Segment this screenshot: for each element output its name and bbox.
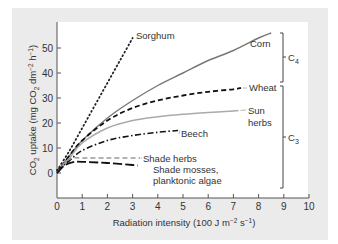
x-tick-label: 7 (231, 201, 237, 212)
y-tick-label: 10 (42, 143, 54, 154)
x-tick-label: 3 (130, 201, 136, 212)
y-tick-label: 30 (42, 93, 54, 104)
x-tick-label: 1 (79, 201, 85, 212)
label-c4: C4 (288, 52, 299, 65)
x-axis-title: Radiation intensity (100 J m−2 s−1) (113, 217, 256, 228)
x-tick-label: 2 (105, 201, 111, 212)
label-shade-mosses-line1: Shade mosses, (153, 164, 218, 175)
label-leader-line (240, 110, 246, 111)
label-corn: Corn (250, 38, 271, 49)
x-tick-label: 8 (256, 201, 262, 212)
curve-corn (57, 33, 271, 173)
label-shade-mosses-line2: planktonic algae (153, 175, 222, 186)
y-ticks: 01020304050 (42, 43, 61, 179)
label-sorghum: Sorghum (136, 30, 175, 41)
curve-shade-mosses-planktonic-algae (57, 162, 138, 173)
x-tick-label: 9 (281, 201, 287, 212)
label-leader-line (179, 131, 180, 135)
x-tick-label: 0 (54, 201, 60, 212)
line-chart: 012345678910 01020304050 Sorghum Corn Wh… (0, 0, 338, 244)
y-tick-label: 40 (42, 68, 54, 79)
x-tick-label: 5 (180, 201, 186, 212)
curves (57, 33, 271, 173)
label-sun-herbs-line2: herbs (248, 117, 272, 128)
bracket-c4 (280, 33, 286, 82)
y-tick-label: 20 (42, 118, 54, 129)
x-tick-label: 4 (155, 201, 161, 212)
curve-sorghum (57, 38, 133, 171)
y-axis-title: CO2 uptake (mg CO2 dm−2 h−1) (27, 45, 40, 175)
y-tick-label: 50 (42, 43, 54, 54)
label-wheat: Wheat (249, 82, 277, 93)
label-sun-herbs-line1: Sun (248, 105, 265, 116)
bracket-c3 (280, 86, 286, 188)
label-beech: Beech (181, 128, 208, 139)
x-tick-label: 6 (205, 201, 211, 212)
label-c3: C3 (288, 132, 299, 145)
x-ticks: 012345678910 (54, 194, 315, 212)
x-tick-label: 10 (303, 201, 315, 212)
label-shade-herbs: Shade herbs (143, 153, 197, 164)
y-tick-label: 0 (47, 168, 53, 179)
